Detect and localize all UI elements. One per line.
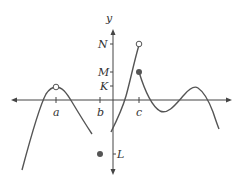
tick-label-c: c [136, 106, 142, 119]
curve-segment-middle [111, 45, 139, 132]
tick-label-b: b [97, 106, 104, 119]
tick-label-a: a [53, 106, 60, 119]
tick-label-L: L [116, 148, 124, 161]
tick-label-M: M [97, 66, 110, 79]
function-graph: y N M K L a b c [0, 0, 241, 181]
open-point-at-a [53, 84, 59, 90]
curve-segment-left [22, 87, 92, 170]
tick-label-K: K [99, 80, 109, 93]
filled-point-at-c-M [136, 69, 142, 75]
open-point-at-c-N [136, 41, 142, 47]
filled-point-at-b-L [97, 151, 103, 157]
tick-label-N: N [97, 38, 108, 51]
y-axis-label: y [105, 12, 113, 25]
